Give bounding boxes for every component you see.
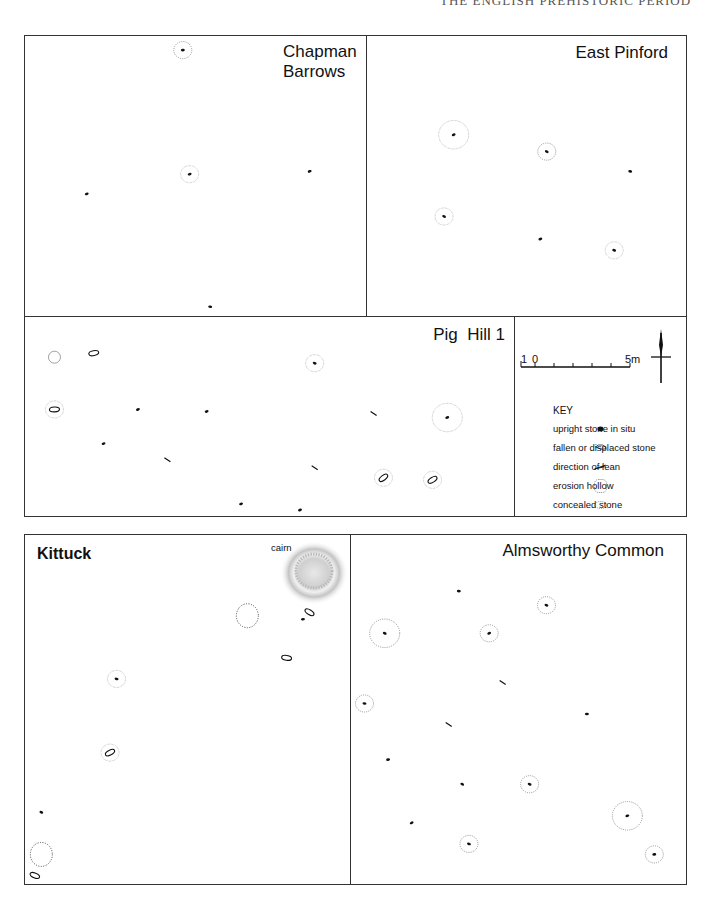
stone-plan-almsworthy-common (351, 535, 686, 884)
concealed-hollow (236, 604, 258, 628)
stone (370, 619, 400, 648)
upright-stone-icon (386, 758, 390, 761)
site-panel-pig-hill-1: Pig Hill 1 (24, 316, 515, 517)
upright-stone-icon (527, 782, 532, 786)
upright-stone-icon (114, 677, 118, 680)
stone (386, 758, 390, 761)
stone (457, 590, 461, 593)
fallen-stone-icon (49, 407, 59, 412)
stone (538, 237, 543, 241)
stone (537, 597, 555, 614)
concealed-hollow (30, 842, 52, 866)
stone (446, 723, 452, 727)
stone-plan-kittuck (25, 535, 350, 884)
upright-stone-icon (538, 237, 543, 241)
stone (236, 604, 258, 628)
site-title-almsworthy-common: Almsworthy Common (502, 541, 664, 561)
north-arrow-icon (659, 329, 663, 357)
key-title: KEY (553, 405, 573, 416)
key-item-concealed: concealed stone (515, 497, 686, 513)
stone (281, 655, 292, 661)
upright-stone-icon (585, 713, 589, 716)
upright-stone-icon (239, 502, 244, 506)
stone (355, 695, 373, 712)
upright-stone-icon (467, 842, 472, 846)
stone (136, 408, 141, 412)
site-title-pig-hill-1: Pig Hill 1 (433, 325, 505, 345)
stone (39, 810, 44, 814)
stone (204, 410, 209, 414)
fallen-stone-icon (378, 473, 389, 483)
stone (181, 166, 199, 183)
stone (612, 802, 642, 831)
stone (208, 305, 212, 308)
key-item-erosion: erosion hollow (515, 478, 686, 494)
upright-stone-icon (301, 618, 305, 621)
site-title-line-2: Barrows (283, 62, 358, 82)
fallen-stone-icon (304, 608, 315, 617)
stone (29, 871, 40, 879)
stone (108, 670, 126, 687)
lean-direction-icon (446, 723, 452, 727)
lean-direction-icon (500, 680, 506, 684)
key-label: upright stone in situ (553, 423, 635, 434)
stone (432, 403, 462, 432)
key-label: erosion hollow (553, 480, 614, 491)
stone (500, 680, 506, 684)
upright-stone-icon (101, 442, 106, 446)
stone (460, 835, 478, 852)
upright-stone-icon (544, 603, 549, 607)
upright-stone-icon (612, 248, 617, 252)
upright-stone-icon (181, 49, 185, 52)
upright-stone-icon (652, 853, 656, 856)
upright-stone-icon (208, 305, 212, 308)
lean-direction-icon (371, 411, 377, 415)
stone (164, 458, 170, 462)
fallen-stone-icon (104, 748, 115, 757)
site-panel-east-pinford: East Pinford (366, 35, 687, 317)
stone (298, 508, 303, 512)
upright-stone-icon (39, 810, 44, 814)
stone (409, 821, 414, 825)
stone (174, 42, 192, 59)
stone (88, 350, 99, 357)
stone (101, 442, 106, 446)
stone (480, 625, 498, 642)
upright-stone-icon (312, 361, 317, 365)
stone (424, 471, 442, 488)
scale-label-left: 1 (521, 353, 527, 365)
stone (460, 782, 465, 786)
stone (645, 846, 663, 863)
stone (371, 411, 377, 415)
erosion-hollow (101, 744, 119, 761)
key-label: fallen or displaced stone (553, 442, 655, 453)
upright-stone-icon (409, 821, 414, 825)
erosion-hollow (48, 351, 60, 363)
cairn-label: cairn (271, 542, 292, 553)
stone (585, 713, 589, 716)
stone (312, 466, 318, 470)
site-title-east-pinford: East Pinford (575, 43, 668, 63)
site-title-kittuck: Kittuck (37, 544, 91, 564)
scale-bar (515, 317, 688, 397)
stone (307, 170, 312, 174)
key-panel: 1 0 5m KEY upright stone in situ fallen … (514, 316, 687, 517)
stone (538, 143, 556, 160)
key-item-fallen: fallen or displaced stone (515, 440, 686, 456)
key-label: direction of lean (553, 461, 620, 472)
stone (306, 355, 324, 372)
upright-stone-icon (487, 631, 492, 635)
stone-plan-pig-hill-1 (25, 317, 514, 516)
fallen-stone-icon (29, 871, 40, 879)
stone (521, 776, 539, 793)
fallen-stone-icon (88, 350, 99, 357)
upright-stone-icon (362, 702, 366, 705)
site-panel-chapman-barrows: Chapman Barrows (24, 35, 367, 317)
upright-stone-icon (298, 508, 303, 512)
site-title-chapman-barrows: Chapman Barrows (283, 42, 358, 82)
lean-direction-icon (312, 466, 318, 470)
stone (374, 469, 392, 486)
erosion-hollow (45, 401, 63, 418)
fallen-stone-icon (281, 655, 292, 661)
upright-stone-icon (544, 150, 549, 154)
